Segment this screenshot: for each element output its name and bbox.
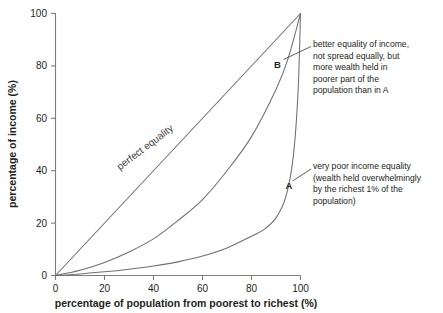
y-axis-ticks	[51, 14, 56, 276]
x-tick-label-60: 60	[197, 283, 209, 294]
y-tick-label-100: 100	[30, 8, 47, 19]
y-tick-label-0: 0	[41, 270, 47, 281]
x-tick-label-40: 40	[148, 283, 160, 294]
curve-b-point-label: B	[274, 59, 281, 70]
y-tick-label-40: 40	[36, 165, 48, 176]
curve-a-point-label: A	[286, 180, 293, 191]
x-tick-label-0: 0	[53, 283, 59, 294]
y-axis-title: percentage of income (%)	[6, 80, 18, 208]
annotation-text-b: better equality of income, not spread eq…	[313, 39, 441, 97]
y-tick-label-20: 20	[36, 218, 48, 229]
curve-perfect-equality	[56, 14, 301, 276]
x-axis-ticks	[56, 276, 301, 281]
leader-line-a	[293, 169, 312, 181]
annotation-text-a: very poor income equality (wealth held o…	[313, 161, 443, 207]
perfect-equality-label: perfect equality	[114, 122, 175, 172]
x-tick-label-20: 20	[99, 283, 111, 294]
y-tick-label-80: 80	[36, 60, 48, 71]
lorenz-curve-figure: 0 20 40 60 80 100 0 20 40 60 80 100 perc…	[0, 0, 443, 313]
y-tick-label-60: 60	[36, 113, 48, 124]
x-axis-title: percentage of population from poorest to…	[55, 297, 318, 309]
leader-line-b	[284, 47, 312, 60]
x-tick-label-100: 100	[292, 283, 309, 294]
x-tick-label-80: 80	[246, 283, 258, 294]
